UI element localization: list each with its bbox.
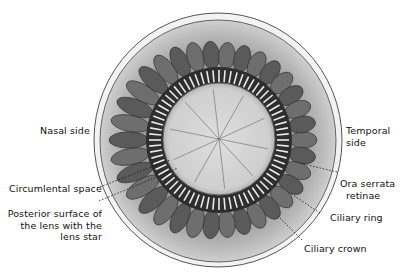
label-ora-line2: retinae <box>340 190 395 202</box>
label-ciliary-crown: Ciliary crown <box>304 243 367 255</box>
label-circumlental-space: Circumlental space <box>9 183 102 195</box>
label-temporal-line2: side <box>346 137 390 149</box>
label-posterior-line1: Posterior surface of <box>4 208 102 220</box>
label-posterior-line2: the lens with the <box>4 220 102 232</box>
label-temporal-side: Temporal side <box>346 125 390 148</box>
label-ora-line1: Ora serrata <box>340 178 395 190</box>
label-ora-serrata: Ora serrata retinae <box>340 178 395 201</box>
label-nasal-side: Nasal side <box>40 125 90 137</box>
label-temporal-line1: Temporal <box>346 125 390 137</box>
label-posterior-surface: Posterior surface of the lens with the l… <box>4 208 102 243</box>
label-posterior-line3: lens star <box>4 231 102 243</box>
lens <box>163 83 275 195</box>
label-ciliary-ring: Ciliary ring <box>330 212 383 224</box>
